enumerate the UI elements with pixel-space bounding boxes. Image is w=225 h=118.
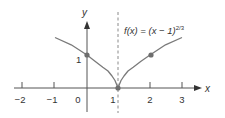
y-axis-label: y bbox=[81, 7, 88, 18]
function-label: f(x) = (x − 1)2/3 bbox=[124, 25, 185, 36]
y-tick-label: 1 bbox=[76, 54, 81, 65]
x-ticks bbox=[22, 82, 182, 88]
x-tick-label: 3 bbox=[179, 94, 184, 105]
x-tick-label: 0 bbox=[75, 94, 80, 105]
x-axis-label: x bbox=[204, 83, 211, 94]
point-0-1 bbox=[84, 52, 89, 57]
function-label-text: f(x) = (x − 1) bbox=[124, 25, 176, 36]
function-label-exponent: 2/3 bbox=[176, 25, 185, 31]
x-tick-label: −2 bbox=[15, 94, 26, 105]
x-tick-labels: −2 −1 0 1 2 3 bbox=[15, 94, 185, 105]
x-tick-label: 1 bbox=[110, 94, 115, 105]
y-axis-arrow-icon bbox=[84, 21, 90, 29]
x-tick-label: −1 bbox=[47, 94, 58, 105]
x-tick-label: 2 bbox=[147, 94, 152, 105]
point-2-1 bbox=[148, 52, 153, 57]
point-1-0 bbox=[115, 85, 120, 90]
x-axis-arrow-icon bbox=[194, 85, 202, 91]
function-graph: x y −2 −1 0 1 2 3 1 f(x) = (x − 1)2/3 bbox=[0, 0, 225, 118]
